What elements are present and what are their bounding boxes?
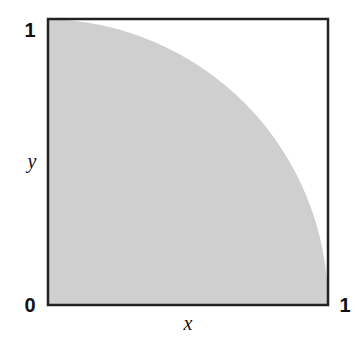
origin-tick-label: 0: [24, 294, 35, 316]
y-max-tick-label: 1: [24, 19, 35, 41]
y-axis-label: y: [26, 150, 37, 173]
x-max-tick-label: 1: [339, 294, 350, 316]
quarter-circle-region: [48, 19, 328, 305]
unit-square-diagram: 1 0 1 x y: [0, 0, 363, 343]
x-axis-label: x: [183, 312, 193, 334]
